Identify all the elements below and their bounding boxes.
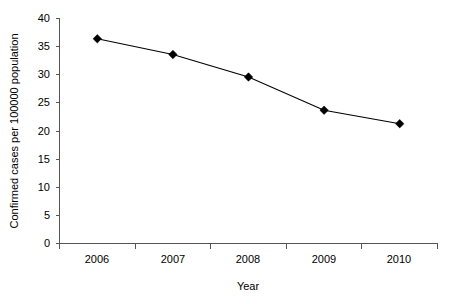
y-axis-title: Confirmed cases per 100000 population xyxy=(8,33,20,228)
y-tick-label-0: 0 xyxy=(44,237,50,249)
x-tick-label-2009: 2009 xyxy=(312,253,336,265)
x-tick-label-2008: 2008 xyxy=(236,253,260,265)
line-chart: 0 5 10 15 20 25 30 35 40 2006 2007 2008 … xyxy=(0,0,451,304)
y-tick-label-25: 25 xyxy=(38,96,50,108)
y-tick-label-5: 5 xyxy=(44,209,50,221)
y-tick-label-40: 40 xyxy=(38,12,50,24)
y-tick-label-20: 20 xyxy=(38,125,50,137)
x-tick-label-2006: 2006 xyxy=(85,253,109,265)
x-tick-label-2007: 2007 xyxy=(161,253,185,265)
chart-background xyxy=(0,0,451,304)
chart-container: 0 5 10 15 20 25 30 35 40 2006 2007 2008 … xyxy=(0,0,451,304)
y-tick-label-30: 30 xyxy=(38,68,50,80)
y-tick-label-15: 15 xyxy=(38,153,50,165)
x-axis-title: Year xyxy=(237,280,260,292)
y-tick-label-35: 35 xyxy=(38,40,50,52)
x-tick-label-2010: 2010 xyxy=(387,253,411,265)
y-tick-label-10: 10 xyxy=(38,181,50,193)
